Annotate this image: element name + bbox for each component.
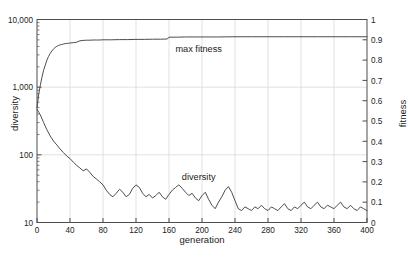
y2-axis-tick-label: 0.1	[371, 198, 383, 207]
y2-axis-tick-label: 1	[371, 16, 376, 25]
y-axis-tick-label: 10,000	[8, 16, 33, 25]
y-axis-tick-label: 100	[19, 151, 33, 160]
y2-axis-tick-label: 0.7	[371, 77, 383, 86]
y2-axis-tick-label: 0.9	[371, 36, 383, 45]
series-annotation: max fitness	[175, 44, 222, 54]
y-axis-title-right: fitness	[397, 84, 408, 144]
y2-axis-tick-label: 0.4	[371, 138, 383, 147]
y-axis-title-left: diversity	[9, 84, 20, 144]
y-axis-tick-label: 10	[24, 219, 34, 228]
y2-axis-tick-label: 0.2	[371, 178, 383, 187]
series-annotation: diversity	[182, 172, 216, 182]
x-axis-title: generation	[0, 234, 404, 245]
y2-axis-tick-label: 0.3	[371, 158, 383, 167]
y2-axis-tick-label: 0.6	[371, 97, 383, 106]
y2-axis-tick-label: 0.5	[371, 117, 383, 126]
y2-axis-tick-label: 0.8	[371, 56, 383, 65]
